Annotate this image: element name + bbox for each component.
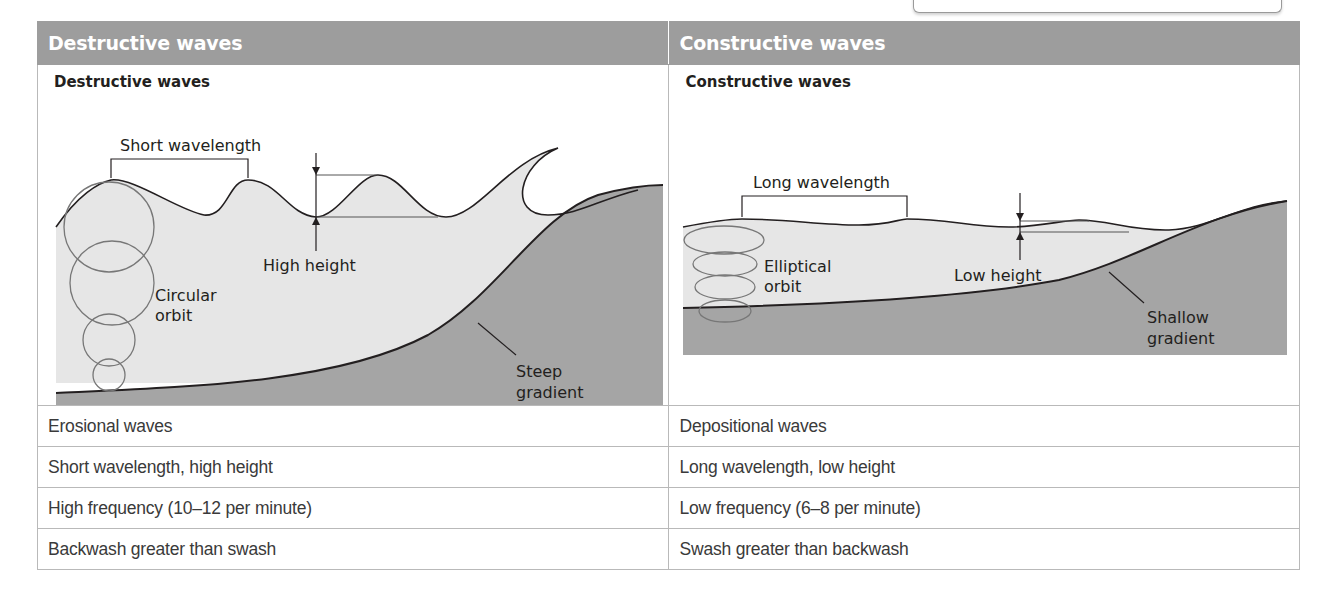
table-cell: Low frequency (6–8 per minute) bbox=[669, 488, 1300, 529]
table-cell: Long wavelength, low height bbox=[669, 447, 1300, 488]
circular-orbit-label-2: orbit bbox=[155, 306, 192, 325]
cell-text: Depositional waves bbox=[669, 406, 1299, 446]
table-row: Short wavelength, high height Long wavel… bbox=[38, 447, 1300, 488]
arrow-down-icon bbox=[1016, 213, 1024, 221]
shallow-gradient-label-2: gradient bbox=[1147, 329, 1214, 348]
table-cell: Backwash greater than swash bbox=[38, 529, 669, 570]
constructive-diagram-cell: Long wavelength Low height Elliptical or… bbox=[669, 65, 1300, 406]
elliptical-orbit-label-2: orbit bbox=[764, 277, 801, 296]
table-cell: High frequency (10–12 per minute) bbox=[38, 488, 669, 529]
destructive-diagram-title: Destructive waves bbox=[54, 73, 210, 91]
table-cell: Swash greater than backwash bbox=[669, 529, 1300, 570]
cell-text: High frequency (10–12 per minute) bbox=[38, 488, 668, 528]
header-destructive-label: Destructive waves bbox=[38, 22, 668, 64]
steep-gradient-label-1: Steep bbox=[516, 362, 562, 381]
table-cell: Erosional waves bbox=[38, 406, 669, 447]
diagram-row: Short wavelength High height Circular or… bbox=[38, 65, 1300, 406]
elliptical-orbit-label-1: Elliptical bbox=[764, 257, 831, 276]
short-wavelength-bracket bbox=[111, 159, 248, 178]
wave-comparison-table: Destructive waves Constructive waves Sho… bbox=[37, 21, 1300, 570]
long-wavelength-label: Long wavelength bbox=[753, 173, 890, 192]
arrow-down-icon bbox=[312, 167, 320, 175]
circular-orbit-label-1: Circular bbox=[155, 286, 217, 305]
constructive-diagram-title: Constructive waves bbox=[685, 73, 850, 91]
header-destructive: Destructive waves bbox=[38, 22, 669, 65]
cell-text: Erosional waves bbox=[38, 406, 668, 446]
constructive-wave-diagram: Long wavelength Low height Elliptical or… bbox=[669, 65, 1300, 405]
header-constructive: Constructive waves bbox=[669, 22, 1300, 65]
destructive-wave-diagram: Short wavelength High height Circular or… bbox=[38, 65, 670, 405]
high-height-label: High height bbox=[263, 256, 356, 275]
table-header-row: Destructive waves Constructive waves bbox=[38, 22, 1300, 65]
low-height-label: Low height bbox=[954, 266, 1042, 285]
destructive-diagram-cell: Short wavelength High height Circular or… bbox=[38, 65, 669, 406]
table-row: Backwash greater than swash Swash greate… bbox=[38, 529, 1300, 570]
cell-text: Low frequency (6–8 per minute) bbox=[669, 488, 1299, 528]
top-box-edge bbox=[913, 0, 1282, 13]
steep-gradient-label-2: gradient bbox=[516, 383, 583, 402]
shallow-gradient-label-1: Shallow bbox=[1147, 308, 1209, 327]
cell-text: Backwash greater than swash bbox=[38, 529, 668, 569]
cell-text: Swash greater than backwash bbox=[669, 529, 1299, 569]
table-cell: Short wavelength, high height bbox=[38, 447, 669, 488]
cell-text: Short wavelength, high height bbox=[38, 447, 668, 487]
cell-text: Long wavelength, low height bbox=[669, 447, 1299, 487]
short-wavelength-label: Short wavelength bbox=[120, 136, 261, 155]
table-row: High frequency (10–12 per minute) Low fr… bbox=[38, 488, 1300, 529]
table-cell: Depositional waves bbox=[669, 406, 1300, 447]
table-row: Erosional waves Depositional waves bbox=[38, 406, 1300, 447]
long-wavelength-bracket bbox=[742, 196, 907, 217]
header-constructive-label: Constructive waves bbox=[669, 22, 1299, 64]
